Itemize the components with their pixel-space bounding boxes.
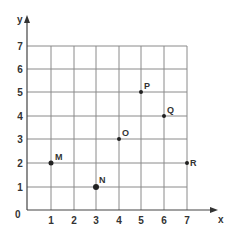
svg-text:6: 6 bbox=[17, 64, 23, 75]
point-r-label: R bbox=[190, 158, 197, 168]
point-m bbox=[49, 161, 54, 166]
point-n-label: N bbox=[99, 175, 106, 185]
svg-text:3: 3 bbox=[17, 134, 23, 145]
svg-text:3: 3 bbox=[93, 215, 99, 226]
point-q-label: Q bbox=[167, 105, 174, 115]
x-axis-label: x bbox=[218, 214, 224, 225]
svg-text:6: 6 bbox=[161, 215, 167, 226]
origin-label: 0 bbox=[15, 209, 21, 220]
svg-text:1: 1 bbox=[17, 182, 23, 193]
y-axis-label: y bbox=[17, 14, 23, 25]
point-r bbox=[185, 161, 189, 165]
svg-text:5: 5 bbox=[17, 87, 23, 98]
point-q bbox=[162, 114, 166, 118]
y-axis-arrow-icon bbox=[24, 15, 30, 23]
coordinate-grid: y x 0 1 2 3 4 5 6 7 1 2 3 4 5 6 7 M N O … bbox=[0, 0, 244, 232]
point-p bbox=[139, 90, 143, 94]
y-tick-labels: 1 2 3 4 5 6 7 bbox=[17, 41, 23, 193]
svg-text:4: 4 bbox=[17, 111, 23, 122]
x-tick-labels: 1 2 3 4 5 6 7 bbox=[48, 215, 190, 226]
point-m-label: M bbox=[55, 152, 63, 162]
svg-text:1: 1 bbox=[48, 215, 54, 226]
point-o bbox=[117, 137, 121, 141]
svg-text:2: 2 bbox=[17, 158, 23, 169]
svg-text:7: 7 bbox=[17, 41, 23, 52]
svg-text:4: 4 bbox=[116, 215, 122, 226]
points: M N O P Q R bbox=[49, 81, 198, 190]
point-p-label: P bbox=[144, 81, 150, 91]
x-axis-arrow-icon bbox=[210, 207, 218, 213]
svg-text:5: 5 bbox=[138, 215, 144, 226]
svg-text:7: 7 bbox=[184, 215, 190, 226]
svg-text:2: 2 bbox=[71, 215, 77, 226]
grid-lines bbox=[27, 46, 187, 210]
point-o-label: O bbox=[122, 128, 129, 138]
